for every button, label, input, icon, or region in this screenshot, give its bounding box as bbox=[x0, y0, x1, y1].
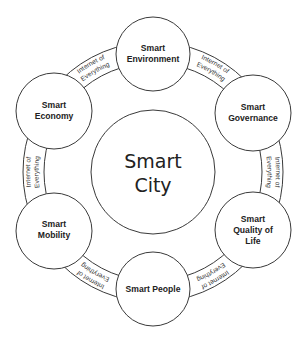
node-smart-economy: Smart Economy bbox=[16, 73, 92, 149]
node-smart-quality-of-life: Smart Quality of Life bbox=[215, 192, 291, 268]
connector-line1: Internet of bbox=[274, 156, 282, 187]
connector-people-mobility: Internet of Everything bbox=[75, 261, 110, 291]
node-smart-people: Smart People bbox=[116, 252, 190, 326]
connector-mobility-economy: Internet of Everything bbox=[24, 155, 42, 188]
center-circle bbox=[91, 110, 215, 234]
node-label-line1: Smart bbox=[141, 43, 165, 53]
connector-line2: Everything bbox=[32, 155, 41, 188]
node-smart-mobility: Smart Mobility bbox=[16, 193, 92, 269]
node-label-line1: Smart bbox=[42, 100, 66, 110]
node-label-line2: Economy bbox=[35, 111, 74, 121]
connector-economy-environment: Internet of Everything bbox=[76, 53, 111, 82]
connector-governance-quality-of-life: Internet of Everything bbox=[264, 156, 282, 189]
node-label-line1: Smart People bbox=[126, 284, 181, 294]
node-label-line3: Life bbox=[245, 236, 260, 246]
node-label-line2: Quality of bbox=[233, 225, 273, 235]
node-label-line1: Smart bbox=[241, 102, 265, 112]
node-label-line1: Smart bbox=[42, 219, 66, 229]
svg-text:Internet of: Internet of bbox=[24, 156, 32, 187]
center-label-line2: City bbox=[134, 174, 171, 196]
node-label-line2: Environment bbox=[127, 54, 180, 64]
node-smart-governance: Smart Governance bbox=[215, 75, 291, 151]
center-label-line1: Smart bbox=[124, 150, 181, 172]
node-smart-environment: Smart Environment bbox=[116, 17, 190, 91]
svg-text:Everything: Everything bbox=[264, 156, 273, 189]
connector-quality-of-life-people: Internet of Everything bbox=[195, 262, 230, 291]
node-label-line1: Smart bbox=[241, 214, 265, 224]
connector-line1: Internet of bbox=[24, 156, 32, 187]
connector-line2: Everything bbox=[264, 156, 273, 189]
center-node-smart-city: Smart City bbox=[91, 110, 215, 234]
smart-city-diagram: Internet of Everything Internet of Every… bbox=[0, 0, 307, 345]
node-label-line2: Governance bbox=[228, 113, 278, 123]
svg-text:Internet of: Internet of bbox=[274, 156, 282, 187]
svg-text:Everything: Everything bbox=[32, 155, 41, 188]
node-label-line2: Mobility bbox=[38, 230, 71, 240]
connector-environment-governance: Internet of Everything bbox=[196, 53, 231, 83]
